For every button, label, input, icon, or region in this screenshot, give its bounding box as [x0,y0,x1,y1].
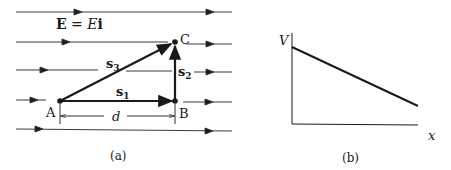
point-a-label: A [45,105,56,120]
field-arrow-icon [74,9,82,15]
field-arrow-icon [35,126,43,132]
caption-a: (a) [110,149,127,163]
vector-s2-label: s2 [178,64,192,81]
field-arrow-icon [206,9,214,15]
vector-s1-label: s1 [116,84,130,101]
x-axis-label: x [428,128,436,143]
y-axis-label: V [279,33,290,48]
point-b-label: B [179,106,189,121]
point-b-dot [172,98,178,104]
field-arrow-icon [30,97,38,103]
field-arrow-icon [206,69,214,75]
potential-line [292,47,418,106]
field-arrow-icon [206,41,214,47]
field-line-5 [16,129,232,131]
field-arrow-icon [40,67,48,73]
graph-b [292,33,418,125]
point-a-dot [57,98,63,104]
figure: E = Ei A B C s3 s1 s2 d (a) V x (b) [0,0,451,170]
vector-s3-label: s3 [106,56,120,73]
x-axis [292,124,418,125]
field-arrow-icon [205,128,213,134]
caption-b: (b) [342,151,359,165]
field-arrow-icon [205,99,213,105]
field-arrow-icon [62,39,70,45]
distance-label: d [112,109,120,124]
point-c-label: C [180,32,190,47]
point-c-dot [172,39,178,45]
field-label: E = Ei [56,16,103,32]
